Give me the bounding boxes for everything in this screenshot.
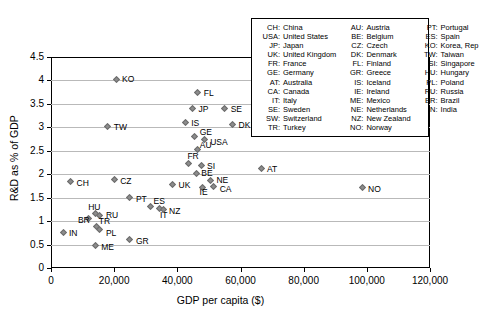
legend-item: HU:Hungary <box>421 68 479 77</box>
legend-item-name: India <box>441 105 457 114</box>
legend-item: SE:Sweden <box>256 105 336 114</box>
legend-item-abbr: KO: <box>421 41 441 50</box>
legend-item-abbr: DK: <box>346 50 366 59</box>
legend-item-abbr: AT: <box>256 78 283 87</box>
data-point-label: CH <box>77 179 89 188</box>
legend-column: PT:PortugalES:SpainKO:Korea, RepTW:Taiwa… <box>421 23 479 132</box>
legend-item-abbr: BE: <box>346 32 366 41</box>
legend-item-name: Poland <box>441 78 464 87</box>
data-point-label: IE <box>200 188 208 197</box>
data-point-label: NE <box>216 176 228 185</box>
legend-item: CH:China <box>256 23 336 32</box>
legend-item-name: Mexico <box>366 96 390 105</box>
data-point-label: PT <box>136 195 147 204</box>
x-axis-title: GDP per capita ($) <box>0 294 441 306</box>
legend-item-abbr: IS: <box>346 78 366 87</box>
legend-item-abbr: AU: <box>346 23 366 32</box>
legend-item: CA:Canada <box>256 87 336 96</box>
y-tick-label: 4.5 <box>0 52 44 62</box>
legend-item: GR:Greece <box>346 68 410 77</box>
legend-item: NE:Netherlands <box>346 105 410 114</box>
gridline <box>51 198 430 199</box>
y-tick-mark <box>47 80 51 81</box>
legend-item-abbr: NE: <box>346 105 366 114</box>
y-tick-mark <box>47 198 51 199</box>
legend-item: IT:Italy <box>256 96 336 105</box>
y-tick-mark <box>47 104 51 105</box>
legend-item-abbr: BR: <box>421 96 441 105</box>
x-tick-mark <box>304 268 305 272</box>
legend-item-name: Taiwan <box>441 50 464 59</box>
legend-item: SI:Singapore <box>421 59 479 68</box>
legend-item-abbr: TR: <box>256 123 283 132</box>
legend-item: ES:Spain <box>421 32 479 41</box>
legend-item-name: Netherlands <box>366 105 406 114</box>
legend-item-name: Canada <box>283 87 309 96</box>
legend-item-abbr: TW: <box>421 50 441 59</box>
data-point-label: CA <box>220 185 232 194</box>
legend-box: CH:ChinaUSA:United StatesJP:JapanUK:Unit… <box>251 18 429 137</box>
y-tick-label: 1.5 <box>0 193 44 203</box>
legend-item: AT:Australia <box>256 78 336 87</box>
legend-item-name: Iceland <box>366 78 390 87</box>
y-tick-mark <box>47 174 51 175</box>
data-point-label: DK <box>239 121 251 130</box>
y-tick-label: 3 <box>0 122 44 132</box>
data-point-label: TW <box>114 123 127 132</box>
legend-item-abbr: ES: <box>421 32 441 41</box>
y-tick-mark <box>47 245 51 246</box>
legend-item-name: Korea, Rep <box>441 41 479 50</box>
data-point-label: ME <box>101 243 114 252</box>
data-point-label: FR <box>187 152 198 161</box>
legend-item-abbr: FR: <box>256 59 283 68</box>
x-tick-mark <box>51 268 52 272</box>
legend-item-name: Australia <box>283 78 312 87</box>
legend-item-name: Greece <box>366 68 391 77</box>
legend-item-name: Italy <box>283 96 297 105</box>
legend-item-name: Turkey <box>283 123 306 132</box>
x-tick-label: 120,000 <box>390 276 470 286</box>
data-point-label: CZ <box>120 177 131 186</box>
data-point-label: AT <box>267 165 277 174</box>
legend-item-abbr: IT: <box>256 96 283 105</box>
legend-item-abbr: FL: <box>346 59 366 68</box>
y-tick-label: 2 <box>0 169 44 179</box>
legend-item-name: France <box>283 59 306 68</box>
legend-item-name: United Kingdom <box>283 50 336 59</box>
legend-item-name: Portugal <box>441 23 469 32</box>
legend-item-abbr: CA: <box>256 87 283 96</box>
data-point-label: GR <box>136 237 149 246</box>
x-tick-mark <box>430 268 431 272</box>
data-point-label: HU <box>88 203 100 212</box>
y-tick-mark <box>47 57 51 58</box>
y-axis-title: R&D as % of GDP <box>8 115 20 201</box>
data-point-label: KO <box>122 75 134 84</box>
gridline <box>51 151 430 152</box>
legend-item-abbr: CH: <box>256 23 283 32</box>
gridline <box>51 174 430 175</box>
legend-item-abbr: PL: <box>421 78 441 87</box>
legend-item: CZ:Czech <box>346 41 410 50</box>
legend-item-abbr: NO: <box>346 123 366 132</box>
data-point-label: AU <box>200 141 212 150</box>
legend-item-name: Denmark <box>366 50 396 59</box>
legend-item: JP:Japan <box>256 41 336 50</box>
x-tick-mark <box>177 268 178 272</box>
legend-item: SW:Switzerland <box>256 114 336 123</box>
legend-item-name: Japan <box>283 41 303 50</box>
legend-item-abbr: HU: <box>421 68 441 77</box>
legend-item-name: Brazil <box>441 96 460 105</box>
data-point-label: JP <box>198 105 208 114</box>
legend-item-abbr: SE: <box>256 105 283 114</box>
legend-item-name: Switzerland <box>283 114 322 123</box>
legend-item-abbr: GR: <box>346 68 366 77</box>
legend-item-name: Austria <box>366 23 389 32</box>
data-point-label: NZ <box>169 207 180 216</box>
legend-item: RU:Russia <box>421 87 479 96</box>
legend-item-abbr: NZ: <box>346 114 366 123</box>
legend-item-name: United States <box>283 32 328 41</box>
legend-item: GE:Germany <box>256 68 336 77</box>
data-point-label: PL <box>106 229 116 238</box>
y-tick-label: 2.5 <box>0 146 44 156</box>
